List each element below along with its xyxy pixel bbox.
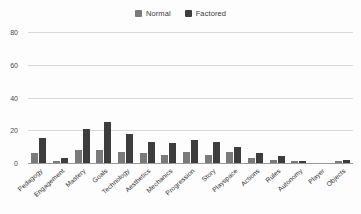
bar-group <box>71 32 93 163</box>
legend-swatch-normal <box>135 10 142 17</box>
bar-factored-pedagogy <box>39 138 46 163</box>
x-label-cell: Player <box>310 165 332 214</box>
bar-normal-playspace <box>226 152 233 163</box>
bar-group <box>28 32 50 163</box>
bar-chart: Normal Factored 806040200 PedagogyEngage… <box>0 0 361 214</box>
x-axis-label-goals: Goals <box>91 167 109 184</box>
bar-factored-objects <box>343 160 350 163</box>
bar-normal-mastery <box>75 150 82 163</box>
bar-group <box>201 32 223 163</box>
bar-factored-mastery <box>83 129 90 163</box>
bar-group <box>288 32 310 163</box>
x-label-cell: Playspace <box>223 165 245 214</box>
bar-normal-mechanics <box>161 155 168 163</box>
bar-normal-actions <box>248 158 255 163</box>
bar-factored-engagement <box>61 158 68 163</box>
bar-group <box>310 32 332 163</box>
bar-group <box>50 32 72 163</box>
x-label-cell: Objects <box>331 165 353 214</box>
chart-legend: Normal Factored <box>0 9 361 18</box>
bar-normal-objects <box>335 161 342 163</box>
bar-factored-story <box>213 142 220 163</box>
bar-normal-goals <box>96 150 103 163</box>
bar-factored-autonomy <box>299 161 306 163</box>
y-tick-label-0: 0 <box>0 160 18 167</box>
plot-area: 806040200 <box>28 32 353 164</box>
x-axis-label-player: Player <box>306 167 325 185</box>
bar-factored-goals <box>104 122 111 163</box>
bar-group <box>245 32 267 163</box>
x-axis-label-story: Story <box>200 167 216 183</box>
bar-group <box>115 32 137 163</box>
x-axis-label-rules: Rules <box>264 167 282 184</box>
bar-factored-playspace <box>234 147 241 163</box>
x-label-cell: Mastery <box>71 165 93 214</box>
bar-group <box>158 32 180 163</box>
x-axis-labels: PedagogyEngagementMasteryGoalsTechnology… <box>28 165 353 214</box>
bar-normal-technology <box>118 152 125 163</box>
bar-normal-pedagogy <box>31 153 38 163</box>
x-label-cell: Progression <box>180 165 202 214</box>
bar-normal-rules <box>270 160 277 163</box>
bars-layer <box>28 32 353 163</box>
x-label-cell: Autonomy <box>288 165 310 214</box>
bar-group <box>266 32 288 163</box>
bar-group <box>136 32 158 163</box>
bar-normal-autonomy <box>291 161 298 163</box>
bar-group <box>93 32 115 163</box>
x-label-cell: Actions <box>245 165 267 214</box>
bar-normal-progression <box>183 152 190 163</box>
legend-label-normal: Normal <box>146 9 171 18</box>
bar-factored-progression <box>191 140 198 163</box>
legend-item-factored: Factored <box>185 9 226 18</box>
bar-factored-rules <box>278 156 285 163</box>
bar-group <box>223 32 245 163</box>
bar-factored-aesthetics <box>148 142 155 163</box>
bar-group <box>180 32 202 163</box>
legend-swatch-factored <box>185 10 192 17</box>
bar-normal-engagement <box>53 161 60 163</box>
y-tick-label-40: 40 <box>0 94 18 101</box>
bar-factored-mechanics <box>169 143 176 163</box>
x-axis-line <box>28 163 353 164</box>
y-tick-label-80: 80 <box>0 29 18 36</box>
bar-factored-technology <box>126 134 133 163</box>
y-tick-label-60: 60 <box>0 61 18 68</box>
bar-factored-actions <box>256 153 263 163</box>
legend-label-factored: Factored <box>196 9 226 18</box>
legend-item-normal: Normal <box>135 9 171 18</box>
x-label-cell: Engagement <box>50 165 72 214</box>
y-tick-label-20: 20 <box>0 127 18 134</box>
bar-normal-aesthetics <box>140 153 147 163</box>
bar-group <box>331 32 353 163</box>
bar-normal-story <box>205 155 212 163</box>
